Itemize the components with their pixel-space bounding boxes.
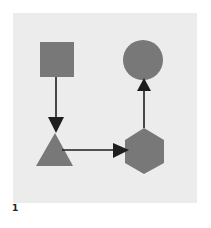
arrow-square-to-triangle — [48, 77, 64, 133]
square-node — [40, 42, 74, 77]
arrow-hexagon-to-circle — [137, 78, 151, 128]
arrow-triangle-to-hexagon — [62, 143, 129, 158]
flow-diagram — [0, 0, 211, 228]
circle-node — [123, 40, 163, 80]
arrowhead-up-icon — [137, 78, 151, 91]
hexagon-node — [125, 128, 164, 174]
figure-label: 1 — [12, 203, 18, 213]
arrowhead-down-icon — [48, 117, 64, 133]
